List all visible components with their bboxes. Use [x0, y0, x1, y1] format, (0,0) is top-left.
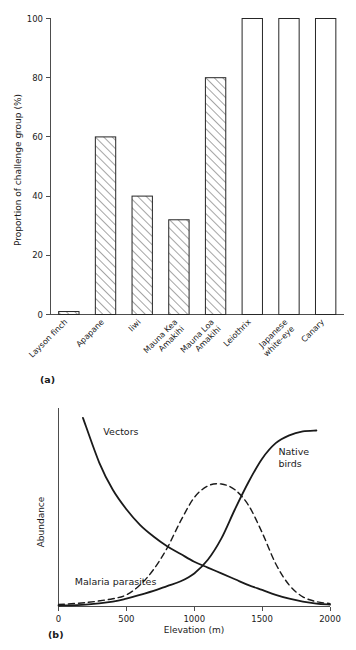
line-x-tick-label: 2000	[319, 614, 341, 624]
bar-series	[59, 19, 336, 315]
bar-category-label: Japanesewhite-eye	[255, 317, 296, 358]
figure-container: Proportion of challenge group (%) 0 20 4…	[0, 0, 356, 650]
bar-y-tick-label: 60	[32, 132, 43, 142]
bar	[132, 196, 152, 314]
line-x-tick-label: 1500	[251, 614, 273, 624]
bar-category-label: Mauna KeaAmakihi	[142, 317, 186, 361]
panel-b-label: (b)	[48, 629, 63, 640]
series-label: Nativebirds	[278, 446, 309, 469]
line-series-annotations: VectorsMalaria parasitesNativebirds	[75, 426, 310, 587]
line-y-axis-title: Abundance	[36, 496, 46, 547]
bar-category-label: Apapane	[75, 318, 106, 349]
line-x-tick-label: 1000	[183, 614, 205, 624]
bar-category-label: Mauna LoaAmakihi	[179, 317, 223, 361]
panel-b-line-chart: Abundance 0500100015002000 Elevation (m)…	[0, 390, 356, 650]
series-label: Malaria parasites	[75, 576, 157, 587]
bar	[242, 19, 262, 315]
bar	[95, 137, 115, 315]
bar-y-tick-label: 20	[32, 250, 43, 260]
panel-a-label: (a)	[40, 374, 55, 385]
line-chart-svg: Abundance 0500100015002000 Elevation (m)…	[0, 390, 356, 650]
bar-category-label: Iiwi	[127, 318, 143, 334]
line-x-ticks: 0500100015002000	[56, 607, 341, 624]
bar-y-tick-label: 80	[32, 73, 43, 83]
bar	[205, 78, 225, 315]
bar-y-axis-title: Proportion of challenge group (%)	[13, 94, 23, 246]
bar-category-label: Layson finch	[27, 318, 69, 360]
bar-category-labels: Layson finchApapaneIiwiMauna KeaAmakihiM…	[27, 317, 326, 361]
bar	[279, 19, 299, 315]
bar-y-ticks: 0 20 40 60 80 100	[27, 14, 51, 320]
bar	[315, 19, 335, 315]
line-x-axis-title: Elevation (m)	[164, 625, 224, 635]
bar-category-label: Leiothrix	[222, 317, 253, 348]
bar-chart-svg: Proportion of challenge group (%) 0 20 4…	[0, 0, 356, 390]
bar-y-tick-label: 40	[32, 191, 43, 201]
line-x-tick-label: 500	[118, 614, 134, 624]
bar-y-tick-label: 0	[38, 310, 43, 320]
series-label: Vectors	[103, 426, 138, 437]
panel-a-bar-chart: Proportion of challenge group (%) 0 20 4…	[0, 0, 356, 390]
bar-category-label: Canary	[300, 317, 327, 344]
bar	[169, 220, 189, 315]
line-x-tick-label: 0	[56, 614, 61, 624]
bar-y-tick-label: 100	[27, 14, 43, 24]
bar	[59, 312, 79, 315]
